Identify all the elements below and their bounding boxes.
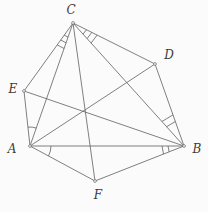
angle-mark-ECA <box>64 35 68 37</box>
angle-mark-BAF <box>48 146 51 156</box>
vertex-A-label: A <box>7 142 17 156</box>
angle-mark-DCB <box>87 32 92 38</box>
angle-mark-DBC <box>167 121 176 126</box>
angle-mark-ECA <box>57 45 64 49</box>
segment-DB <box>155 64 184 146</box>
vertex-B-dot <box>183 145 186 148</box>
segment-AD <box>30 64 155 146</box>
segment-FA <box>30 146 95 181</box>
segment-EC <box>24 23 73 91</box>
geometry-svg: ABCDEF <box>0 0 208 212</box>
vertex-D-label: D <box>163 48 174 62</box>
segment-AE <box>24 91 30 146</box>
segment-CD <box>73 23 155 64</box>
angle-mark-DCB <box>83 30 86 34</box>
vertex-A-dot <box>29 145 32 148</box>
angle-mark-EAC <box>28 127 36 128</box>
vertex-D-dot <box>154 63 157 66</box>
segment-CF <box>73 23 95 181</box>
angle-mark-ABF <box>162 146 164 154</box>
vertex-E-dot <box>23 90 26 93</box>
angle-mark-ABF <box>168 146 169 152</box>
vertex-C-label: C <box>66 3 75 17</box>
vertex-C-dot <box>72 22 75 25</box>
vertex-B-label: B <box>192 142 202 156</box>
segment-CA <box>30 23 73 146</box>
vertex-E-label: E <box>8 82 18 96</box>
angle-mark-DCB <box>91 35 97 43</box>
segment-BE <box>24 91 184 146</box>
geometry-figure: ABCDEF <box>0 0 208 212</box>
segment-BC <box>73 23 184 146</box>
vertex-F-label: F <box>93 188 103 202</box>
angle-mark-ECA <box>61 40 66 43</box>
angle-mark-DBC <box>162 115 173 122</box>
segment-BF <box>95 146 184 181</box>
vertex-F-dot <box>94 180 97 183</box>
